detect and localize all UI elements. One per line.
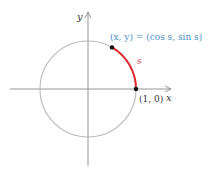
origin-point-label: (1, 0) bbox=[139, 94, 163, 104]
y-axis-label: y bbox=[76, 11, 83, 22]
arc-s bbox=[112, 47, 136, 89]
point-cos-sin bbox=[110, 45, 114, 49]
x-axis-label: x bbox=[166, 92, 172, 103]
point-label: (x, y) = (cos s, sin s) bbox=[110, 32, 202, 42]
unit-circle-diagram: y x (x, y) = (cos s, sin s) s (1, 0) bbox=[0, 0, 212, 170]
arc-label: s bbox=[137, 56, 142, 66]
point-1-0 bbox=[134, 87, 138, 91]
